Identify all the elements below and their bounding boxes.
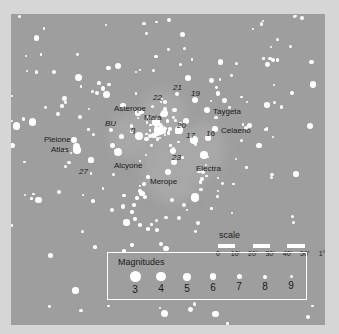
scale-segment	[305, 244, 322, 248]
star	[218, 59, 224, 65]
star	[24, 194, 26, 196]
star	[155, 219, 158, 222]
star	[152, 69, 155, 72]
star	[155, 21, 158, 24]
star	[169, 144, 172, 147]
magnitude-legend-item: 6	[200, 271, 226, 293]
star	[107, 83, 110, 86]
star	[177, 216, 181, 220]
star	[109, 128, 114, 133]
star	[209, 78, 214, 83]
star	[188, 307, 193, 312]
magnitude-legend-item: 3	[122, 271, 148, 295]
star	[97, 81, 101, 85]
star	[180, 32, 185, 37]
star	[300, 16, 304, 20]
star	[260, 22, 264, 26]
star	[306, 315, 310, 319]
star	[32, 193, 34, 195]
star	[64, 101, 67, 104]
star	[93, 245, 97, 249]
star	[273, 101, 276, 104]
star	[193, 302, 197, 306]
magnitude-legend-item: 8	[252, 271, 278, 292]
star	[110, 208, 114, 212]
star	[151, 105, 154, 108]
star	[76, 53, 79, 56]
star	[235, 158, 237, 160]
star	[52, 70, 56, 74]
star-label-pleione: Pleione	[44, 136, 71, 144]
star	[177, 141, 180, 144]
magnitude-dot	[156, 272, 166, 282]
star	[11, 143, 15, 148]
star	[200, 151, 207, 158]
star	[102, 187, 105, 190]
star	[155, 228, 158, 231]
star	[264, 102, 270, 108]
scale-segment	[235, 244, 252, 248]
star	[79, 309, 82, 312]
star	[149, 129, 152, 132]
star	[293, 171, 299, 177]
star	[161, 110, 168, 117]
star	[73, 146, 81, 154]
star	[157, 128, 160, 131]
star	[88, 108, 90, 110]
star-label-23: 23	[172, 154, 181, 162]
star	[145, 154, 147, 156]
star	[292, 221, 295, 224]
star	[92, 133, 95, 136]
star	[280, 105, 284, 109]
star	[135, 196, 138, 199]
star	[210, 207, 213, 210]
magnitude-value: 3	[122, 284, 148, 295]
star	[26, 70, 28, 72]
star	[122, 194, 126, 198]
star	[23, 161, 26, 164]
star	[34, 35, 40, 41]
star	[291, 215, 294, 218]
star	[72, 287, 79, 294]
star	[307, 123, 313, 129]
star	[270, 173, 274, 177]
magnitude-dot	[130, 271, 141, 282]
star	[103, 91, 110, 98]
star-label-16: 16	[206, 130, 215, 138]
magnitude-value: 8	[252, 281, 278, 292]
star-label-17: 17	[186, 132, 195, 140]
star	[311, 305, 314, 308]
magnitude-dot	[237, 274, 242, 279]
star-label-alcyone: Alcyone	[114, 162, 142, 170]
star	[13, 122, 21, 130]
star	[40, 53, 42, 55]
star-label-electra: Electra	[196, 165, 221, 173]
star	[121, 204, 126, 209]
star	[22, 117, 25, 120]
star	[95, 91, 99, 95]
magnitude-legend-item: 5	[174, 271, 200, 294]
star	[44, 106, 47, 109]
star	[67, 161, 70, 164]
sky-field: PleioneAtlas27BUAlcyoneηAsteropeMaia2221…	[11, 14, 325, 325]
star	[215, 86, 218, 89]
star	[11, 95, 13, 97]
star	[71, 137, 77, 143]
star	[130, 243, 133, 246]
star	[186, 209, 188, 211]
star	[166, 119, 169, 122]
star	[226, 322, 228, 324]
star	[167, 18, 171, 22]
star	[216, 195, 219, 198]
star	[150, 223, 153, 226]
star	[35, 197, 42, 204]
star	[114, 148, 122, 156]
star	[70, 152, 72, 154]
star	[142, 182, 145, 185]
star	[172, 147, 175, 150]
star	[212, 311, 218, 317]
star	[60, 104, 64, 108]
star	[185, 75, 191, 81]
star	[191, 193, 199, 201]
magnitude-dot	[263, 275, 267, 279]
